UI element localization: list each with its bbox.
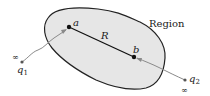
point-a-label: a — [73, 17, 79, 28]
point-a-dot — [67, 25, 71, 29]
charge-q2-dot — [183, 78, 186, 81]
charge-q1-label: q1 — [17, 64, 28, 77]
region-shape — [45, 8, 166, 90]
infinity-q2-icon: ∞ — [181, 86, 188, 95]
diagram-canvas: a b R Region ∞ q1 q2 ∞ — [0, 0, 210, 96]
point-b-dot — [132, 55, 136, 59]
charge-q2-label: q2 — [189, 73, 200, 86]
infinity-q1-icon: ∞ — [12, 53, 19, 62]
segment-R-label: R — [100, 30, 109, 41]
point-b-label: b — [133, 44, 139, 55]
region-label: Region — [149, 18, 185, 29]
